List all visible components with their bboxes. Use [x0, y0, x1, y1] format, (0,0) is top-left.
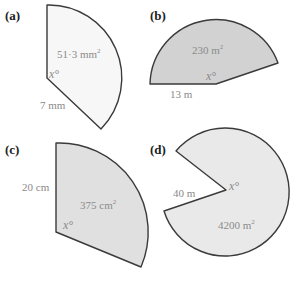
figure-a: (a) 51·3 mm2 x° 7 mm [5, 5, 122, 129]
radius-label-a: 7 mm [40, 99, 66, 111]
figure-b: (b) 230 m2 x° 13 m [150, 8, 278, 100]
sector-diagrams: (a) 51·3 mm2 x° 7 mm (b) 230 m2 x° 13 m … [0, 0, 304, 290]
part-label-b: (b) [150, 8, 166, 23]
radius-label-d: 40 m [173, 187, 196, 199]
figure-d: (d) 40 m x° 4200 m2 [150, 128, 289, 256]
radius-label-c: 20 cm [22, 181, 50, 193]
area-label-a: 51·3 mm2 [57, 47, 101, 60]
figure-c: (c) 20 cm 375 cm2 x° [5, 142, 148, 267]
angle-label-c: x° [62, 218, 73, 232]
part-label-c: (c) [5, 142, 19, 157]
angle-label-d: x° [228, 179, 239, 193]
angle-label-b: x° [205, 69, 216, 83]
part-label-d: (d) [150, 142, 166, 157]
angle-label-a: x° [48, 67, 59, 81]
area-label-b: 230 m2 [192, 43, 224, 56]
radius-label-b: 13 m [170, 88, 193, 100]
area-label-d: 4200 m2 [218, 218, 255, 231]
area-label-c: 375 cm2 [80, 198, 117, 211]
part-label-a: (a) [5, 8, 20, 23]
